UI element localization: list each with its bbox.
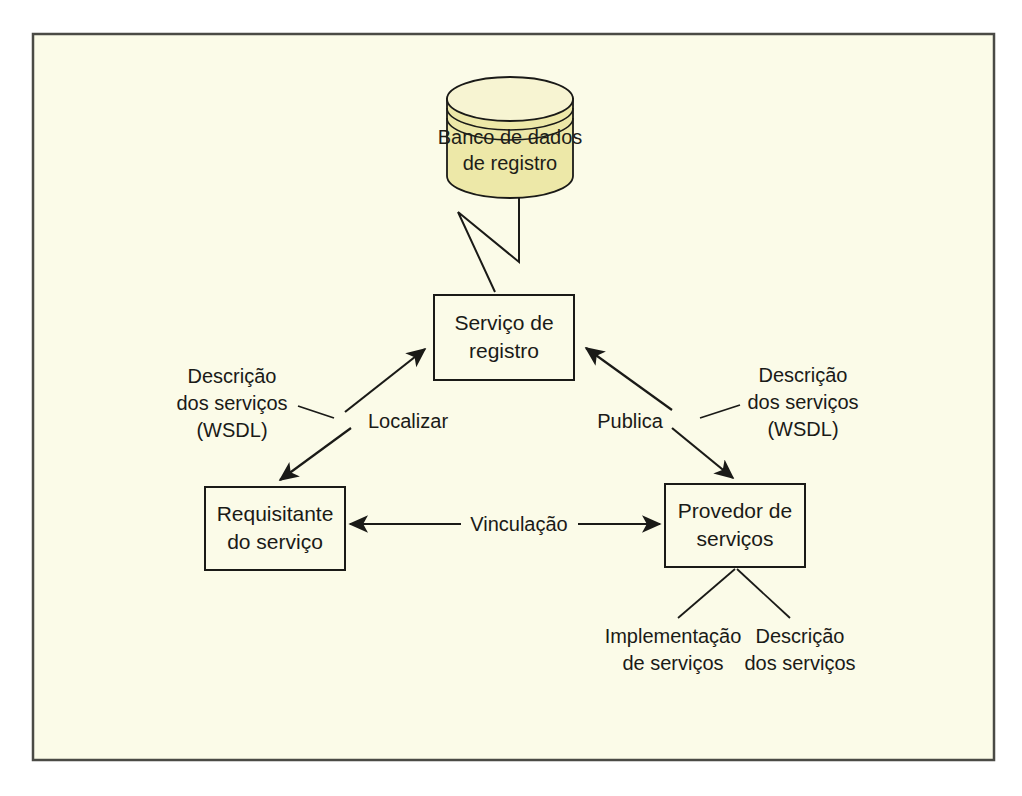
callout-left-wsdl-line1: Descrição (188, 365, 277, 387)
callout-right-wsdl-line2: dos serviços (747, 391, 858, 413)
edge-publish-label: Publica (597, 410, 663, 432)
service-provider: Provedor de serviços (665, 484, 805, 567)
callout-right-wsdl-line3: (WSDL) (767, 418, 838, 440)
service-provider-label-line1: Provedor de (678, 499, 792, 522)
edge-binding-label: Vinculação (470, 513, 567, 535)
callout-description-line2: dos serviços (744, 652, 855, 674)
registry-database: Banco de dados de registro (438, 77, 583, 198)
cylinder-top (447, 77, 573, 121)
callout-implementation-line2: de serviços (622, 652, 723, 674)
registry-database-label-line1: Banco de dados (438, 126, 583, 148)
registry-service-box (434, 295, 574, 380)
callout-left-wsdl-line3: (WSDL) (196, 419, 267, 441)
edge-locate-label: Localizar (368, 410, 448, 432)
registry-service: Serviço de registro (434, 295, 574, 380)
service-provider-label-line2: serviços (696, 527, 773, 550)
registry-service-label-line1: Serviço de (454, 311, 553, 334)
service-requester-label-line2: do serviço (227, 530, 323, 553)
callout-left-wsdl-line2: dos serviços (176, 392, 287, 414)
callout-description-line1: Descrição (756, 625, 845, 647)
figure-root: Banco de dados de registro Serviço de re… (0, 0, 1022, 796)
service-requester: Requisitante do serviço (205, 487, 345, 570)
service-requester-label-line1: Requisitante (217, 502, 334, 525)
callout-implementation-line1: Implementação (605, 625, 742, 647)
service-requester-box (205, 487, 345, 570)
service-provider-box (665, 484, 805, 567)
registry-database-label-line2: de registro (463, 152, 558, 174)
registry-service-label-line2: registro (469, 339, 539, 362)
soa-diagram: Banco de dados de registro Serviço de re… (0, 0, 1022, 796)
callout-right-wsdl-line1: Descrição (759, 364, 848, 386)
